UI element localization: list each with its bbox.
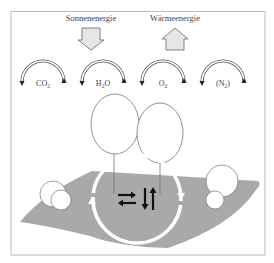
co2-label: CO2 (36, 79, 50, 89)
solar-energy-label: Sonnenenergie (66, 13, 117, 23)
h2o-label: H2O (96, 79, 111, 89)
heat-energy-label: Wärmeenergie (150, 13, 200, 23)
bubble-right-small (206, 191, 224, 209)
n2-label: (N2) (216, 79, 230, 89)
o2-label: O2 (159, 79, 168, 89)
bubble-left-small (51, 190, 71, 210)
solar-energy-down-arrow-icon (78, 28, 104, 50)
ecosystem-diagram: Sonnenenergie Wärmeenergie CO2 H2O O2 (N… (0, 0, 274, 263)
heat-energy-up-arrow-icon (162, 28, 188, 50)
cloud-ellipse-left (91, 94, 139, 154)
